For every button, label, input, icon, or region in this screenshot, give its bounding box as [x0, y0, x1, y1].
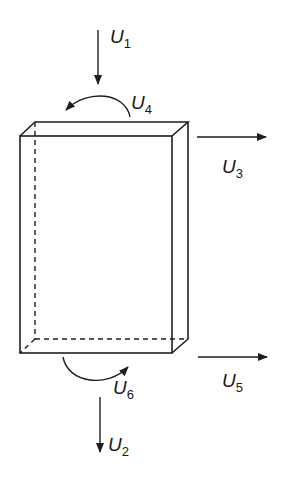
u6-label: U6 — [113, 377, 134, 402]
u3-label: U3 — [222, 156, 243, 181]
box — [20, 122, 188, 353]
u1-label: U1 — [110, 26, 131, 51]
u5-label: U5 — [222, 370, 243, 395]
box-diagram: U1 U4 U3 U5 U6 U2 — [0, 0, 287, 482]
u4-rotation-arrow — [66, 96, 130, 117]
hidden-edge-corner — [20, 339, 35, 353]
u4-label: U4 — [131, 92, 152, 117]
front-face — [20, 136, 172, 353]
top-face — [20, 122, 188, 136]
right-face — [172, 122, 188, 353]
u2-label: U2 — [108, 434, 129, 459]
